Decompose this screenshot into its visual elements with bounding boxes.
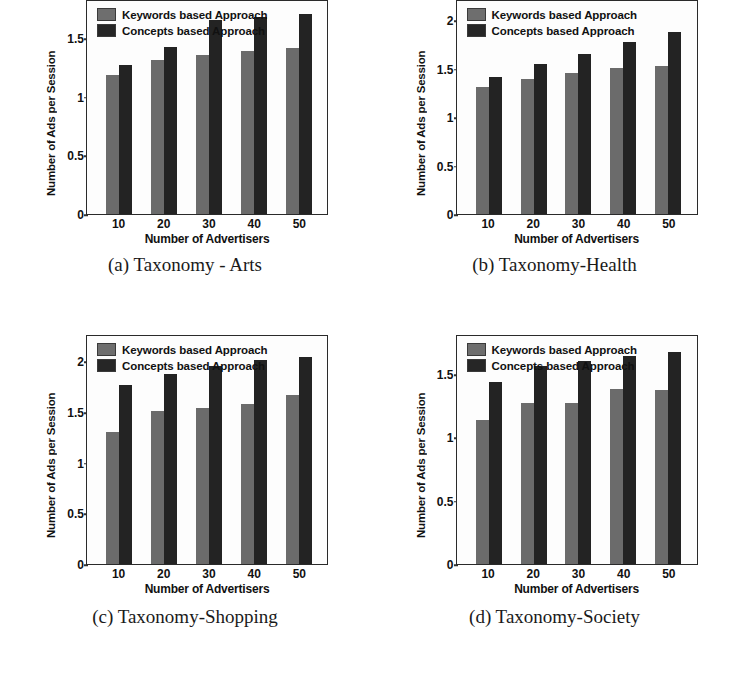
bar-group-30 <box>196 20 222 214</box>
legend-label-concepts: Concepts based Approach <box>492 360 635 372</box>
bar-group-40 <box>610 356 636 564</box>
y-tick-b-0.5: 0.5 <box>437 160 454 174</box>
x-tick-c-30: 30 <box>193 567 225 581</box>
x-tick-a-30: 30 <box>193 217 225 231</box>
bar-concepts-10 <box>119 65 132 214</box>
x-tick-b-20: 20 <box>517 217 549 231</box>
plot-area-c: Keywords based Approach Concepts based A… <box>86 335 328 565</box>
x-tick-c-50: 50 <box>283 567 315 581</box>
legend-row-keywords: Keywords based Approach <box>97 8 268 21</box>
x-axis-ticks-d: 1020304050 <box>456 567 698 581</box>
legend-row-concepts: Concepts based Approach <box>467 359 638 372</box>
y-tick-a-0.5: 0.5 <box>67 149 84 163</box>
y-axis-ticks-d: 00.511.5 <box>430 335 456 565</box>
x-tick-d-10: 10 <box>472 567 504 581</box>
legend-swatch-concepts-icon <box>97 359 116 372</box>
bar-group-40 <box>241 360 267 564</box>
legend-b: Keywords based Approach Concepts based A… <box>467 8 638 40</box>
bar-group-30 <box>565 54 591 214</box>
bar-concepts-40 <box>254 360 267 564</box>
x-tick-a-10: 10 <box>103 217 135 231</box>
legend-row-concepts: Concepts based Approach <box>467 24 638 37</box>
figure-panel-d: Number of Ads per Session 00.511.5 Keywo… <box>370 335 739 691</box>
y-tick-d-1: 1 <box>447 431 454 445</box>
bar-keywords-30 <box>565 403 578 564</box>
legend-row-keywords: Keywords based Approach <box>467 8 638 21</box>
y-axis-label-c: Number of Ads per Session <box>42 335 60 596</box>
y-tick-d-1.5: 1.5 <box>437 368 454 382</box>
bar-group-20 <box>151 374 177 565</box>
y-tick-a-0: 0 <box>77 208 84 222</box>
chart-c: Number of Ads per Session 00.511.52 Keyw… <box>42 335 328 596</box>
bar-concepts-20 <box>534 366 547 564</box>
x-axis-ticks-c: 1020304050 <box>86 567 328 581</box>
y-tick-d-0: 0 <box>447 558 454 572</box>
panel-caption-a: (a) Taxonomy - Arts <box>108 254 262 276</box>
y-axis-ticks-c: 00.511.52 <box>60 335 86 565</box>
figure-panel-b: Number of Ads per Session 00.511.52 Keyw… <box>370 0 739 335</box>
panel-caption-b: (b) Taxonomy-Health <box>472 254 637 276</box>
legend-label-keywords: Keywords based Approach <box>492 9 638 21</box>
bar-keywords-30 <box>196 55 209 214</box>
bar-group-50 <box>286 357 312 564</box>
legend-label-concepts: Concepts based Approach <box>492 25 635 37</box>
bar-concepts-30 <box>209 20 222 214</box>
legend-a: Keywords based Approach Concepts based A… <box>97 8 268 40</box>
x-tick-d-40: 40 <box>608 567 640 581</box>
chart-d: Number of Ads per Session 00.511.5 Keywo… <box>412 335 698 596</box>
bar-keywords-50 <box>286 48 299 214</box>
legend-row-concepts: Concepts based Approach <box>97 24 268 37</box>
bar-keywords-30 <box>196 408 209 564</box>
y-axis-label-a: Number of Ads per Session <box>42 0 60 246</box>
x-axis-ticks-b: 1020304050 <box>456 217 698 231</box>
x-axis-label-b: Number of Advertisers <box>456 232 698 246</box>
y-tick-b-0: 0 <box>447 208 454 222</box>
x-tick-a-40: 40 <box>238 217 270 231</box>
x-tick-a-20: 20 <box>148 217 180 231</box>
bar-concepts-30 <box>578 54 591 214</box>
plot-area-a: Keywords based Approach Concepts based A… <box>86 0 328 215</box>
legend-label-keywords: Keywords based Approach <box>492 344 638 356</box>
bar-keywords-20 <box>521 79 534 214</box>
bar-concepts-30 <box>578 361 591 564</box>
legend-swatch-keywords-icon <box>467 343 486 356</box>
panel-caption-c: (c) Taxonomy-Shopping <box>92 606 278 628</box>
legend-swatch-keywords-icon <box>97 8 116 21</box>
legend-label-concepts: Concepts based Approach <box>122 25 265 37</box>
y-axis-label-b: Number of Ads per Session <box>412 0 430 246</box>
panel-caption-d: (d) Taxonomy-Society <box>469 606 640 628</box>
legend-swatch-concepts-icon <box>467 359 486 372</box>
bar-group-20 <box>521 64 547 214</box>
bar-concepts-30 <box>209 366 222 564</box>
bar-concepts-20 <box>164 374 177 565</box>
bar-group-20 <box>521 366 547 564</box>
x-axis-label-c: Number of Advertisers <box>86 582 328 596</box>
bar-concepts-20 <box>534 64 547 214</box>
bar-keywords-40 <box>610 68 623 214</box>
legend-row-concepts: Concepts based Approach <box>97 359 268 372</box>
bar-concepts-40 <box>623 356 636 564</box>
bar-group-40 <box>241 17 267 214</box>
plot-area-b: Keywords based Approach Concepts based A… <box>456 0 698 215</box>
bar-concepts-10 <box>489 382 502 564</box>
bar-keywords-50 <box>286 395 299 564</box>
y-tick-b-2: 2 <box>447 14 454 28</box>
bar-keywords-20 <box>151 60 164 214</box>
legend-row-keywords: Keywords based Approach <box>467 343 638 356</box>
x-tick-b-10: 10 <box>472 217 504 231</box>
bar-concepts-50 <box>668 32 681 214</box>
y-tick-d-0.5: 0.5 <box>437 495 454 509</box>
bar-concepts-50 <box>299 357 312 564</box>
x-tick-b-50: 50 <box>653 217 685 231</box>
y-tick-c-2: 2 <box>77 355 84 369</box>
x-tick-b-30: 30 <box>562 217 594 231</box>
x-tick-d-20: 20 <box>517 567 549 581</box>
bar-group-50 <box>655 32 681 214</box>
x-tick-a-50: 50 <box>283 217 315 231</box>
plot-area-d: Keywords based Approach Concepts based A… <box>456 335 698 565</box>
bar-keywords-10 <box>106 432 119 564</box>
bar-concepts-50 <box>299 14 312 214</box>
legend-label-keywords: Keywords based Approach <box>122 9 268 21</box>
bar-keywords-20 <box>521 403 534 564</box>
y-axis-ticks-b: 00.511.52 <box>430 0 456 215</box>
